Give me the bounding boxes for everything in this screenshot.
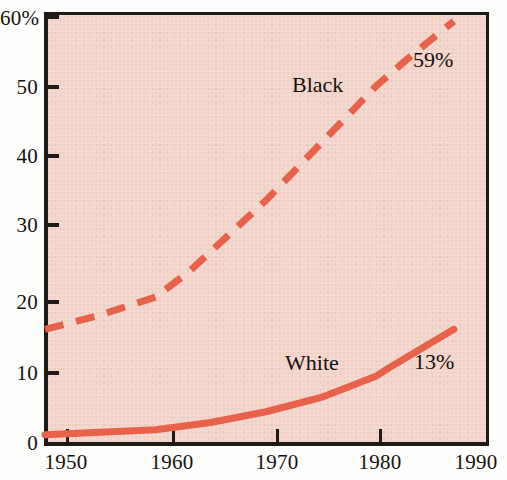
chart-figure: 60% 50 40 30 20 10 0 1950 1960 1970 1980… [0,0,507,480]
series-label-black: Black [292,74,343,96]
y-tick-label-40: 40 [0,146,38,167]
x-tick-label-1980: 1980 [339,452,421,473]
series-line-black [45,21,454,329]
end-value-black: 59% [413,49,453,71]
x-tick-label-1990: 1990 [446,452,506,473]
series-layer [45,14,487,444]
y-tick-label-10: 10 [0,363,38,384]
y-tick-label-50: 50 [0,77,38,98]
x-tick-label-1960: 1960 [131,452,213,473]
x-tick-label-1970: 1970 [236,452,318,473]
y-tick-label-20: 20 [0,292,38,313]
series-line-white [45,329,454,434]
x-tick-label-1950: 1950 [25,452,107,473]
y-tick-label-0: 0 [0,433,38,454]
y-tick-label-60: 60% [0,8,38,29]
y-tick-label-30: 30 [0,215,38,236]
series-label-white: White [285,352,339,374]
end-value-white: 13% [414,351,454,373]
